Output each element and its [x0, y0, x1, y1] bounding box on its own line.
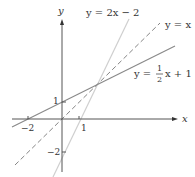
- label-line-y-equals-x: y = x: [164, 19, 191, 30]
- tick-label-x-1: 1: [81, 123, 87, 133]
- line-2x-minus-2: [53, 19, 129, 177]
- label-line-half-x-plus-1-lhs: y =: [133, 68, 151, 79]
- tick-label-x-neg2: −2: [21, 123, 34, 133]
- x-axis-arrow-icon: [172, 117, 178, 121]
- label-line-half-x-plus-1-rhs: x + 1: [165, 68, 192, 79]
- line-half-x-plus-1: [12, 46, 175, 127]
- tick-label-y-neg2: −2: [47, 147, 60, 157]
- graph: y x −2 1 1 −2 y = 2x − 2 y = x y = 1 2 x…: [0, 0, 195, 177]
- y-axis-label: y: [57, 5, 64, 16]
- x-axis-label: x: [182, 113, 188, 124]
- y-axis-arrow-icon: [60, 19, 64, 25]
- label-line-half-x-plus-1-num: 1: [157, 64, 162, 73]
- line-y-equals-x: [15, 23, 160, 165]
- label-line-2x-minus-2: y = 2x − 2: [85, 7, 140, 18]
- tick-label-y-1: 1: [53, 96, 59, 106]
- label-line-half-x-plus-1-den: 2: [157, 75, 162, 84]
